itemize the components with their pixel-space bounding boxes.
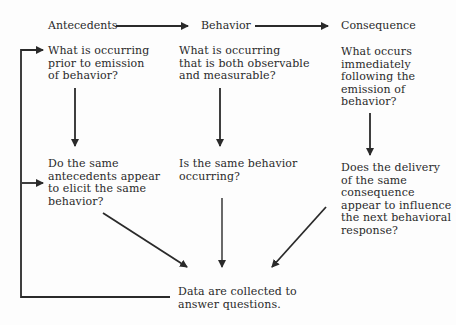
- header-behavior: Behavior: [201, 20, 251, 32]
- consequence-question-1: What occurs immediately following the em…: [341, 46, 415, 109]
- consequence-question-2: Does the delivery of the same consequenc…: [341, 162, 451, 237]
- header-consequence: Consequence: [341, 20, 416, 32]
- abc-flow-diagram: Antecedents Behavior Consequence What is…: [0, 0, 456, 325]
- behavior-question-2: Is the same behavior occurring?: [179, 158, 297, 183]
- arrow-antecedents-to-data: [103, 213, 187, 267]
- outcome-data-collected: Data are collected to answer questions.: [178, 286, 297, 311]
- antecedents-question-2: Do the same antecedents appear to elicit…: [48, 158, 160, 208]
- header-antecedents: Antecedents: [48, 20, 117, 32]
- behavior-question-1: What is occurring that is both observabl…: [179, 45, 310, 83]
- arrow-consequence-to-data: [272, 207, 326, 267]
- antecedents-question-1: What is occurring prior to emission of b…: [48, 45, 149, 83]
